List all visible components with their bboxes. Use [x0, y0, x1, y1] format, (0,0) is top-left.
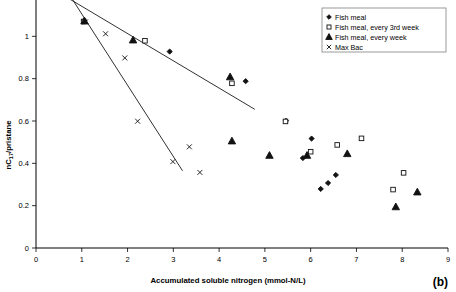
y-tick-label: 0.6 [19, 117, 29, 126]
marker-diamond [309, 136, 314, 141]
marker-triangle [266, 152, 273, 159]
y-tick-label: 0.4 [19, 159, 29, 168]
marker-square [327, 25, 331, 29]
marker-diamond [333, 172, 338, 177]
x-tick-label: 2 [125, 255, 129, 264]
trend-line [61, 0, 255, 109]
chart-canvas: 0123456789 00.20.40.60.81 Accumulated so… [0, 0, 456, 292]
x-tick-label: 6 [309, 255, 313, 264]
legend-item: Fish meal, every week [326, 33, 407, 42]
x-tick-label: 5 [263, 255, 267, 264]
x-tick-label: 0 [34, 255, 38, 264]
y-tick-label: 0.8 [19, 74, 29, 83]
marker-triangle [226, 73, 233, 80]
marker-square [283, 119, 288, 124]
x-tick-label: 1 [80, 255, 84, 264]
x-tick-label: 8 [400, 255, 404, 264]
marker-square [391, 187, 396, 192]
legend-item: Fish meal, every 3rd week [327, 23, 419, 32]
x-tick-label: 7 [354, 255, 358, 264]
trend-line [69, 0, 183, 171]
marker-square [308, 149, 313, 154]
marker-triangle [129, 36, 136, 43]
legend-item-label: Fish meal, every 3rd week [335, 23, 419, 32]
marker-triangle [392, 203, 399, 210]
marker-square [335, 143, 340, 148]
marker-diamond [318, 186, 323, 191]
marker-diamond [167, 49, 172, 54]
y-tick-label: 0.2 [19, 201, 29, 210]
x-axis-ticks: 0123456789 [34, 248, 450, 264]
legend: Fish mealFish meal, every 3rd weekFish m… [322, 8, 446, 52]
x-tick-label: 3 [171, 255, 175, 264]
marker-cross [187, 144, 192, 149]
marker-cross [122, 55, 127, 60]
marker-triangle [344, 150, 351, 157]
marker-diamond [325, 180, 330, 185]
y-axis-title: nC17/pristane [4, 120, 14, 170]
legend-item-label: Fish meal [335, 13, 367, 22]
x-tick-label: 4 [217, 255, 221, 264]
x-tick-label: 9 [446, 255, 450, 264]
scatter-chart: 0123456789 00.20.40.60.81 Accumulated so… [0, 0, 456, 292]
panel-label: (b) [433, 275, 448, 289]
marker-cross [170, 159, 175, 164]
y-axis-title-pre: nC [4, 159, 13, 170]
y-axis-title-post: /pristane [4, 120, 13, 153]
y-tick-label: 0 [25, 244, 29, 253]
legend-item-label: Max Bac [335, 43, 363, 52]
marker-cross [135, 119, 140, 124]
y-axis-ticks: 00.20.40.60.81 [19, 32, 36, 253]
marker-diamond [243, 79, 248, 84]
marker-triangle [414, 188, 421, 195]
y-axis-title-group: nC17/pristane [4, 120, 14, 170]
marker-square [401, 171, 406, 176]
marker-triangle [228, 137, 235, 144]
marker-square [230, 81, 235, 86]
x-axis-title: Accumulated soluble nitrogen (mmol-N/L) [150, 276, 305, 285]
marker-cross [103, 31, 108, 36]
trend-lines [61, 0, 255, 171]
series-diamond [81, 18, 338, 192]
marker-cross [197, 170, 202, 175]
marker-square [143, 39, 148, 44]
y-tick-label: 1 [25, 32, 29, 41]
legend-item-label: Fish meal, every week [335, 33, 407, 42]
marker-square [359, 136, 364, 141]
